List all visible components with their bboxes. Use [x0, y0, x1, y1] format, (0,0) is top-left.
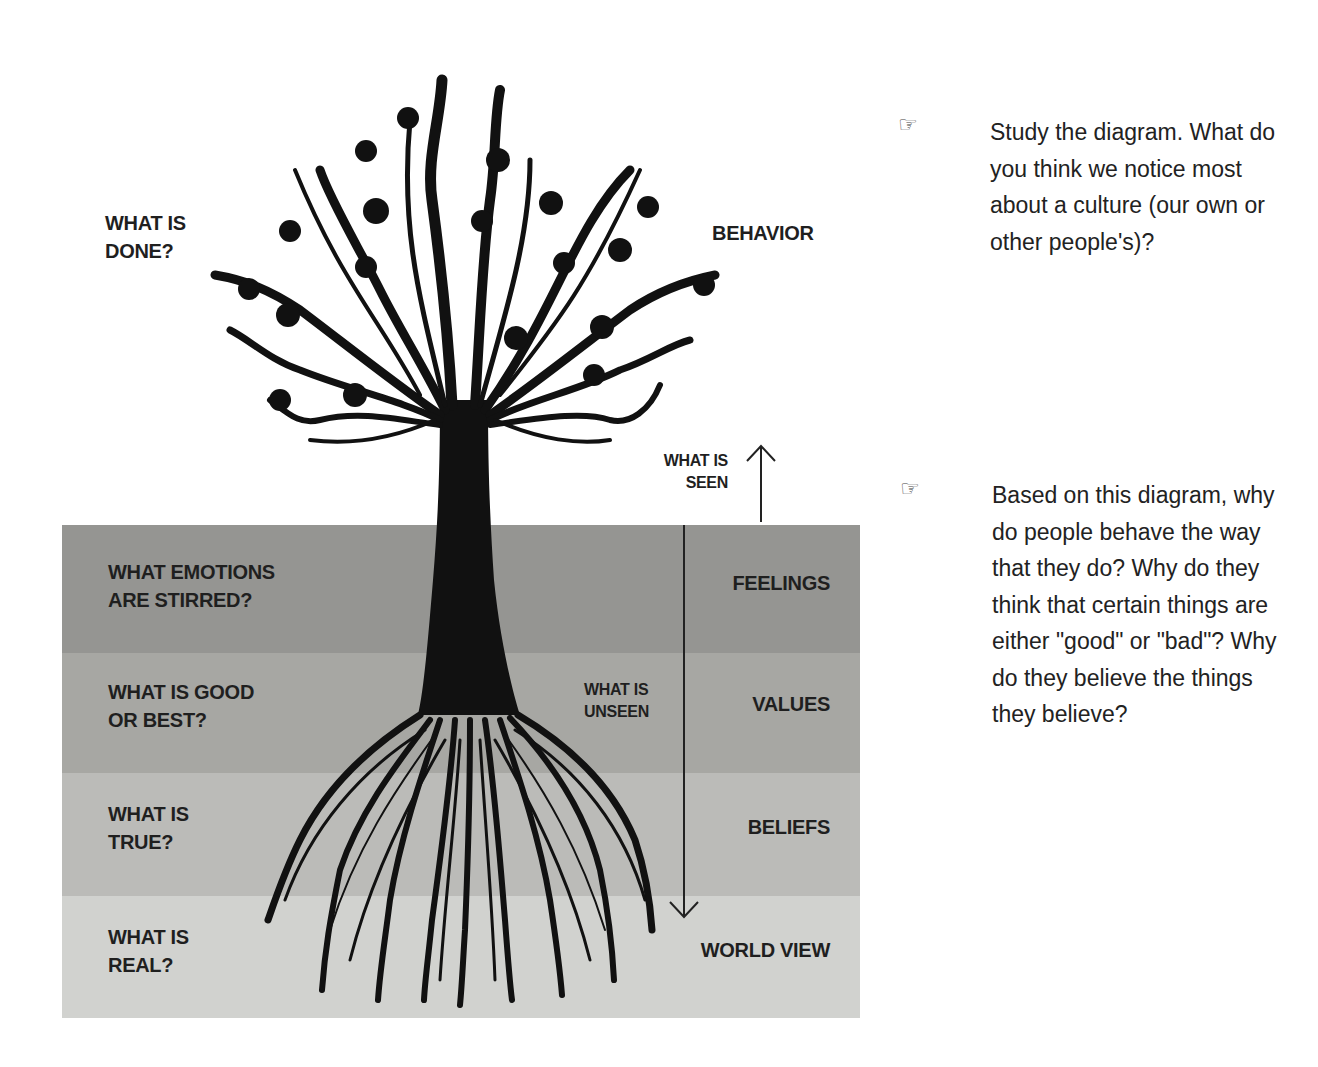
what-is-done-question: WHAT IS DONE?: [105, 209, 186, 265]
layer-label-feelings: FEELINGS: [680, 569, 830, 597]
layer-question-values: WHAT IS GOOD OR BEST?: [108, 678, 254, 734]
what-is-unseen-label: WHAT IS UNSEEN: [584, 679, 649, 723]
discussion-question-1: Study the diagram. What do you think we …: [990, 114, 1280, 260]
culture-tree-diagram: WHAT IS DONE? BEHAVIOR WHAT IS SEEN WHAT…: [0, 0, 880, 1067]
layer-label-beliefs: BELIEFS: [680, 813, 830, 841]
pointing-hand-icon: ☞: [898, 112, 918, 137]
layer-question-feelings: WHAT EMOTIONS ARE STIRRED?: [108, 558, 275, 614]
layer-label-values: VALUES: [680, 690, 830, 718]
behavior-label: BEHAVIOR: [712, 219, 814, 247]
what-is-seen-label: WHAT IS SEEN: [640, 450, 728, 494]
pointing-hand-icon: ☞: [900, 476, 920, 501]
layer-question-beliefs: WHAT IS TRUE?: [108, 800, 189, 856]
layer-question-world-view: WHAT IS REAL?: [108, 923, 189, 979]
arrow-up-icon: [747, 446, 775, 522]
seen-unseen-arrows: [0, 0, 880, 1067]
layer-label-world-view: WORLD VIEW: [660, 936, 830, 964]
discussion-question-2: Based on this diagram, why do people beh…: [992, 477, 1282, 733]
